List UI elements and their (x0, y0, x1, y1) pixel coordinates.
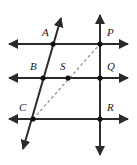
label-r: R (106, 101, 114, 113)
figure-canvas: A P B S Q C R (0, 0, 137, 165)
point-p (97, 41, 102, 46)
label-p: P (106, 26, 114, 38)
point-s (65, 75, 70, 80)
label-q: Q (107, 60, 115, 72)
label-b: B (30, 60, 37, 72)
geometry-figure: A P B S Q C R (0, 0, 137, 165)
point-a (50, 41, 55, 46)
point-r (97, 116, 102, 121)
label-c: C (19, 101, 27, 113)
label-s: S (60, 60, 66, 72)
point-b (40, 75, 45, 80)
point-q (97, 75, 102, 80)
label-a: A (41, 26, 49, 38)
point-c (30, 116, 35, 121)
